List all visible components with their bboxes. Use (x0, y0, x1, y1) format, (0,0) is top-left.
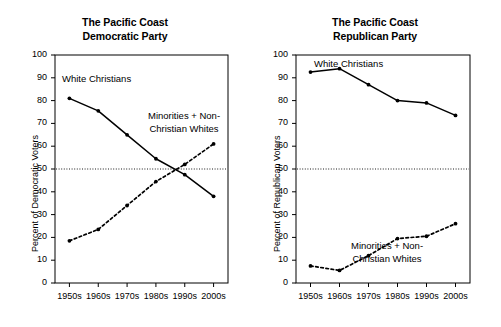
annotation-line-2: Christian Whites (148, 123, 220, 136)
annotation-minorities-democratic: Minorities + Non- Christian Whites (148, 110, 220, 135)
data-point-marker (125, 133, 129, 137)
y-axis-tick-label: 0 (23, 277, 47, 287)
y-axis-tick-label: 20 (23, 231, 47, 241)
y-axis-tick-label: 60 (23, 140, 47, 150)
y-axis-tick-label: 70 (23, 117, 47, 127)
chart-panel-republican: The Pacific Coast Republican Party Perce… (250, 0, 500, 327)
y-axis-tick-label: 60 (264, 140, 288, 150)
data-point-marker (212, 142, 216, 146)
data-point-marker (68, 239, 72, 243)
annotation-line-1: Minorities + Non- (351, 240, 423, 253)
y-axis-tick-label: 80 (23, 95, 47, 105)
data-point-marker (125, 204, 129, 208)
y-axis-tick-label: 50 (264, 163, 288, 173)
y-axis-tick-label: 90 (23, 72, 47, 82)
annotation-white-christians-republican: White Christians (314, 58, 383, 71)
series-line-white-christians (311, 69, 456, 116)
y-axis-tick-label: 10 (23, 254, 47, 264)
data-point-marker (425, 234, 429, 238)
y-axis-tick-label: 50 (23, 163, 47, 173)
data-point-marker (68, 96, 72, 100)
data-point-marker (212, 194, 216, 198)
annotation-line-2: Christian Whites (351, 253, 423, 266)
y-axis-tick-label: 100 (264, 49, 288, 59)
annotation-minorities-republican: Minorities + Non- Christian Whites (351, 240, 423, 265)
data-point-marker (183, 173, 187, 177)
data-point-marker (454, 114, 458, 118)
y-axis-tick-label: 90 (264, 72, 288, 82)
data-point-marker (96, 228, 100, 232)
annotation-white-christians-democratic: White Christians (62, 73, 131, 86)
x-axis-tick-label: 2000s (438, 291, 474, 301)
y-axis-tick-label: 10 (264, 254, 288, 264)
x-axis-tick-label: 2000s (196, 291, 232, 301)
y-axis-tick-label: 40 (264, 186, 288, 196)
data-point-marker (183, 163, 187, 167)
figure-canvas: The Pacific Coast Democratic Party Perce… (0, 0, 501, 327)
data-point-marker (454, 222, 458, 226)
y-axis-tick-label: 20 (264, 231, 288, 241)
data-point-marker (367, 83, 371, 87)
y-axis-tick-label: 40 (23, 186, 47, 196)
data-point-marker (309, 264, 313, 268)
data-point-marker (96, 109, 100, 113)
data-point-marker (338, 269, 342, 273)
data-point-marker (425, 101, 429, 105)
data-point-marker (309, 70, 313, 74)
annotation-line-1: Minorities + Non- (148, 110, 220, 123)
annotation-line-1: White Christians (314, 58, 383, 71)
y-axis-tick-label: 70 (264, 117, 288, 127)
data-point-marker (396, 99, 400, 103)
y-axis-tick-label: 100 (23, 49, 47, 59)
y-axis-tick-label: 80 (264, 95, 288, 105)
y-axis-tick-label: 30 (264, 209, 288, 219)
y-axis-tick-label: 30 (23, 209, 47, 219)
chart-panel-democratic: The Pacific Coast Democratic Party Perce… (0, 0, 250, 327)
annotation-line-1: White Christians (62, 73, 131, 86)
data-point-marker (154, 180, 158, 184)
y-axis-tick-label: 0 (264, 277, 288, 287)
series-line-minorities-non-christian-whites (69, 144, 213, 241)
data-point-marker (154, 157, 158, 161)
